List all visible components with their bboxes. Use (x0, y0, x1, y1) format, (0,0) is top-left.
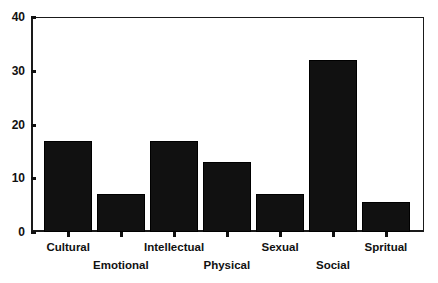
y-axis-tick-mark (31, 16, 36, 19)
y-axis-tick-label: 40 (0, 10, 31, 24)
y-axis-tick-mark (31, 124, 36, 127)
x-axis-tick-mark (279, 232, 282, 237)
y-axis-tick-label: 0 (0, 225, 31, 239)
y-axis-tick-text: 0 (18, 225, 31, 239)
y-axis-tick-text: 30 (12, 64, 31, 78)
y-axis-tick-text: 20 (12, 118, 31, 132)
y-axis-tick-mark (31, 231, 36, 234)
y-axis-tick-mark (31, 177, 36, 180)
x-axis-tick-mark (226, 232, 229, 237)
x-axis-tick-mark (332, 232, 335, 237)
x-axis-label-sexual: Sexual (262, 240, 299, 254)
y-axis-tick-text: 40 (12, 10, 31, 24)
x-axis-label-social: Social (316, 258, 350, 272)
x-axis-tick-mark (67, 232, 70, 237)
x-axis-label-spritual: Spritual (365, 240, 408, 254)
y-axis-tick-label: 20 (0, 118, 31, 132)
x-axis-label-intellectual: Intellectual (144, 240, 204, 254)
y-axis-tick-text: 10 (12, 171, 31, 185)
x-axis-label-physical: Physical (204, 258, 251, 272)
x-axis-tick-mark (173, 232, 176, 237)
x-axis-tick-mark (120, 232, 123, 237)
y-axis-tick-mark (31, 70, 36, 73)
plot-area-frame (31, 17, 424, 232)
x-axis-label-cultural: Cultural (47, 240, 90, 254)
bar-chart: 010203040 CulturalEmotionalIntellectualP… (0, 0, 438, 283)
x-axis-label-emotional: Emotional (93, 258, 149, 272)
y-axis-tick-label: 10 (0, 171, 31, 185)
x-axis-tick-mark (385, 232, 388, 237)
y-axis-tick-label: 30 (0, 64, 31, 78)
